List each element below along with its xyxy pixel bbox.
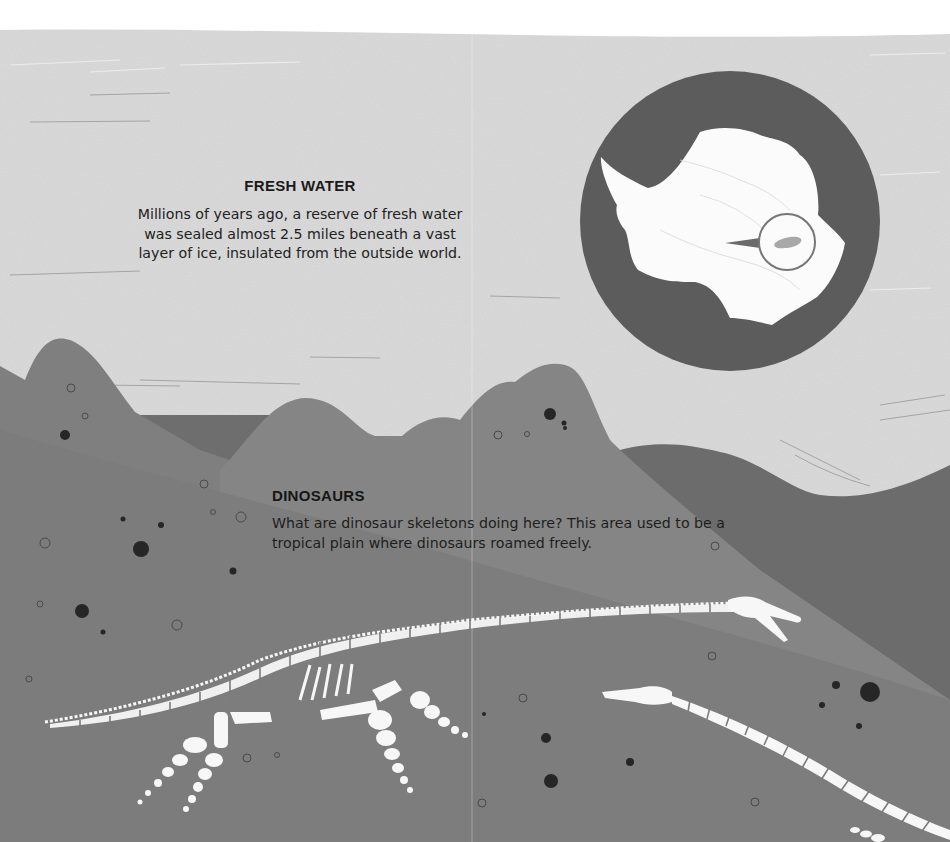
- fresh-water-heading: FRESH WATER: [150, 177, 450, 194]
- dinosaurs-paragraph: What are dinosaur skeletons doing here? …: [272, 514, 732, 553]
- illustration-scene: [0, 0, 950, 842]
- dinosaurs-heading: DINOSAURS: [272, 487, 365, 504]
- antarctica-map: [580, 71, 880, 371]
- fresh-water-paragraph: Millions of years ago, a reserve of fres…: [130, 205, 470, 264]
